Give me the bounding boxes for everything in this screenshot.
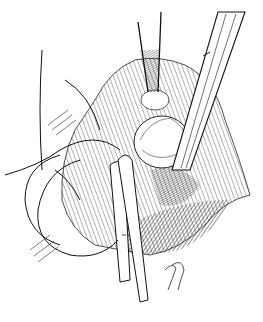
illustration [0,0,263,322]
artist-signature [165,262,184,290]
surgical-drawing [0,0,263,322]
